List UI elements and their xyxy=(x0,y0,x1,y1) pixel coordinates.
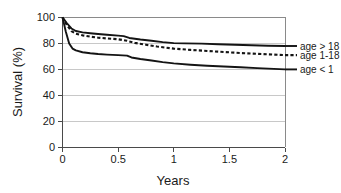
y-tick-label: 60 xyxy=(43,63,55,75)
gridlines xyxy=(62,43,285,121)
x-axis-title: Years xyxy=(157,173,190,188)
y-axis xyxy=(58,17,63,147)
x-tick-label: 2 xyxy=(282,153,288,165)
plot-frame xyxy=(62,17,285,147)
survival-curve-figure: 100 80 60 40 20 0 Survival (%) 0 0.5 1 1… xyxy=(0,0,341,193)
series-line-age-1-18 xyxy=(63,17,286,55)
x-tick-label: 0.5 xyxy=(111,153,126,165)
legend-label-age-1-18: age 1-18 xyxy=(300,50,340,61)
y-tick-label: 20 xyxy=(43,115,55,127)
y-tick-label: 0 xyxy=(49,141,55,153)
legend-label-age-under-1: age < 1 xyxy=(300,64,334,75)
chart-svg: 100 80 60 40 20 0 Survival (%) 0 0.5 1 1… xyxy=(0,0,341,193)
x-axis xyxy=(62,148,285,152)
x-tick-label: 0 xyxy=(59,153,65,165)
legend: age > 18 age 1-18 age < 1 xyxy=(300,41,340,75)
series-line-age-over-18 xyxy=(63,17,286,46)
y-axis-title: Survival (%) xyxy=(10,47,25,117)
legend-connectors xyxy=(285,46,297,69)
y-tick-label: 100 xyxy=(37,11,55,23)
x-tick-label: 1 xyxy=(171,153,177,165)
y-tick-label: 80 xyxy=(43,37,55,49)
x-tick-labels: 0 0.5 1 1.5 2 xyxy=(59,153,288,165)
x-tick-label: 1.5 xyxy=(222,153,237,165)
y-tick-label: 40 xyxy=(43,89,55,101)
y-tick-labels: 100 80 60 40 20 0 xyxy=(37,11,55,153)
